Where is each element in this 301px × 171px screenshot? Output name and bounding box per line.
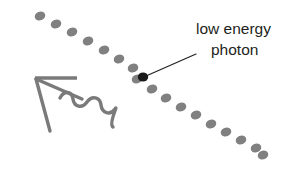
- annotation-label-line-1: low energy: [196, 20, 271, 37]
- arrow-shaft: [36, 79, 50, 131]
- trajectory-dot: [174, 101, 187, 113]
- trajectory-dot: [49, 18, 62, 30]
- photon-highlight-dot: [138, 72, 148, 81]
- trajectory-dot: [219, 126, 232, 138]
- trajectory-dot: [126, 62, 139, 74]
- trajectory-dot: [81, 35, 94, 47]
- annotation-label-line-2: photon: [211, 41, 258, 58]
- trajectory-dot: [65, 26, 78, 38]
- arrow-barb: [36, 79, 82, 99]
- figure-canvas: low energy photon: [0, 0, 301, 171]
- trajectory-dot: [97, 44, 110, 56]
- diagram-svg: low energy photon: [0, 0, 301, 171]
- trajectory-dot: [145, 83, 158, 95]
- trajectory-dot: [189, 109, 202, 121]
- trajectory-dot: [204, 118, 217, 130]
- trajectory-dot: [159, 92, 172, 104]
- trajectory-dot: [234, 134, 247, 146]
- trajectory-dot: [112, 53, 125, 65]
- trajectory-dot: [33, 10, 46, 22]
- annotation-leader-line: [146, 54, 196, 76]
- wavy-photon-squiggle: [60, 92, 116, 127]
- scattered-photon-arrow: [35, 78, 116, 131]
